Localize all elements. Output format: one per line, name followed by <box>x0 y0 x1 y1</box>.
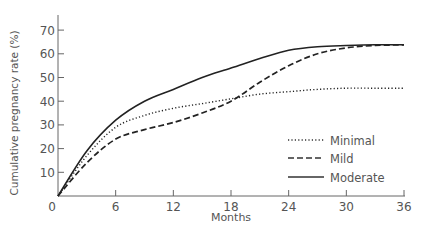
y-tick-label: 50 <box>40 71 55 85</box>
x-tick-label: 12 <box>166 200 181 214</box>
legend-label-mild: Mild <box>330 152 354 166</box>
y-tick-label: 10 <box>40 166 55 180</box>
y-axis-label: Cumulative pregnancy rate (%) <box>8 30 20 195</box>
legend: MinimalMildModerate <box>288 134 385 185</box>
x-tick-label: 24 <box>281 200 296 214</box>
x-tick-label: 0 <box>48 200 56 214</box>
y-tick-label: 20 <box>40 142 55 156</box>
legend-label-moderate: Moderate <box>330 171 385 185</box>
y-tick-label: 40 <box>40 95 55 109</box>
y-tick-label: 60 <box>40 47 55 61</box>
x-tick-label: 36 <box>396 200 411 214</box>
y-tick-label: 30 <box>40 118 55 132</box>
x-axis-label: Months <box>211 211 251 224</box>
legend-label-minimal: Minimal <box>330 134 375 148</box>
line-chart: 10203040506070061218243036 MinimalMildMo… <box>0 0 432 237</box>
y-tick-label: 70 <box>40 24 55 38</box>
x-tick-label: 6 <box>112 200 120 214</box>
x-tick-label: 30 <box>339 200 354 214</box>
